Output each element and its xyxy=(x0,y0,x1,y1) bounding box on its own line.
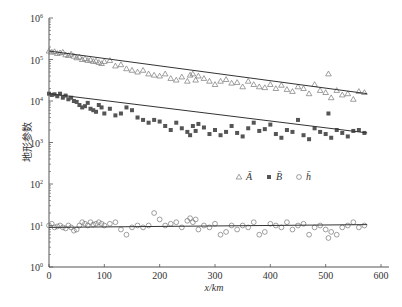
data-point xyxy=(163,223,168,228)
data-point xyxy=(339,92,345,97)
data-point xyxy=(141,225,146,230)
data-point xyxy=(328,95,334,100)
data-point xyxy=(179,225,184,230)
data-point xyxy=(185,78,191,83)
data-point xyxy=(169,128,173,132)
fit-line xyxy=(49,51,367,94)
data-point xyxy=(323,90,329,95)
data-point xyxy=(118,62,124,67)
data-point xyxy=(140,67,146,72)
data-point xyxy=(141,118,145,122)
legend-label: h̄ xyxy=(306,171,311,182)
data-point xyxy=(285,128,289,132)
data-point xyxy=(202,125,206,129)
data-point xyxy=(290,89,296,94)
legend-marker xyxy=(236,174,242,179)
data-point xyxy=(173,77,179,82)
data-point xyxy=(146,71,152,76)
data-point xyxy=(130,225,135,230)
legend-label: Ā xyxy=(245,171,253,182)
data-point xyxy=(113,63,119,68)
y-tick-label: 106 xyxy=(30,13,43,24)
data-point xyxy=(194,129,198,133)
data-point xyxy=(124,66,130,71)
data-point xyxy=(107,221,112,226)
data-point xyxy=(268,123,272,127)
data-point xyxy=(240,84,246,89)
data-point xyxy=(318,130,322,134)
data-point xyxy=(362,223,367,228)
data-point xyxy=(246,126,250,130)
x-tick-label: 500 xyxy=(318,270,333,281)
data-point xyxy=(113,220,118,225)
data-point xyxy=(151,72,157,77)
data-point xyxy=(279,136,283,140)
data-point xyxy=(174,121,178,125)
data-point xyxy=(351,96,357,101)
x-tick-label: 400 xyxy=(263,270,278,281)
data-point xyxy=(185,218,190,223)
data-point xyxy=(94,221,99,226)
data-point xyxy=(229,80,235,85)
data-point xyxy=(284,87,290,92)
data-point xyxy=(262,230,267,235)
data-point xyxy=(108,107,112,111)
data-point xyxy=(180,126,184,130)
data-point xyxy=(223,77,229,82)
data-point xyxy=(193,217,198,222)
data-point xyxy=(252,121,256,125)
data-point xyxy=(102,111,106,115)
x-tick-label: 0 xyxy=(47,270,52,281)
data-point xyxy=(317,88,323,93)
data-point xyxy=(135,69,141,74)
legend-label: B̄ xyxy=(276,171,282,182)
data-point xyxy=(301,86,307,91)
data-point xyxy=(241,134,245,138)
data-point xyxy=(251,220,256,225)
y-tick-label: 104 xyxy=(30,96,43,107)
data-point xyxy=(324,132,328,136)
data-point xyxy=(323,227,328,232)
data-point xyxy=(334,232,339,237)
data-point xyxy=(196,227,201,232)
data-point xyxy=(302,133,306,137)
data-point xyxy=(152,211,157,216)
series-0 xyxy=(46,48,367,101)
data-point xyxy=(162,71,168,76)
data-point xyxy=(326,71,332,76)
data-point xyxy=(86,101,90,105)
data-point xyxy=(163,124,167,128)
data-point xyxy=(312,82,318,87)
x-tick-label: 600 xyxy=(374,270,389,281)
y-axis-title: 地形参数 xyxy=(21,122,33,162)
data-point xyxy=(152,118,156,122)
data-point xyxy=(136,116,140,120)
data-point xyxy=(263,127,267,131)
legend: ĀB̄h̄ xyxy=(236,171,311,182)
data-point xyxy=(279,82,285,87)
data-point xyxy=(157,73,163,78)
data-point xyxy=(224,130,228,134)
data-point xyxy=(55,224,60,229)
data-point xyxy=(72,228,77,233)
data-point xyxy=(251,82,257,87)
data-point xyxy=(219,133,223,137)
data-point xyxy=(80,220,85,225)
y-tick-label: 102 xyxy=(30,179,43,190)
data-point xyxy=(285,220,290,225)
data-point xyxy=(107,58,113,63)
data-point xyxy=(146,223,151,228)
data-point xyxy=(157,217,162,222)
data-point xyxy=(113,113,117,117)
data-point xyxy=(262,85,268,90)
data-point xyxy=(135,223,140,228)
data-point xyxy=(235,131,239,135)
data-point xyxy=(329,230,334,235)
data-point xyxy=(235,227,240,232)
y-tick-label: 100 xyxy=(30,262,43,273)
data-point xyxy=(345,223,350,228)
data-point xyxy=(168,221,173,226)
data-point xyxy=(83,221,88,226)
data-point xyxy=(202,223,207,228)
data-point xyxy=(158,120,162,124)
